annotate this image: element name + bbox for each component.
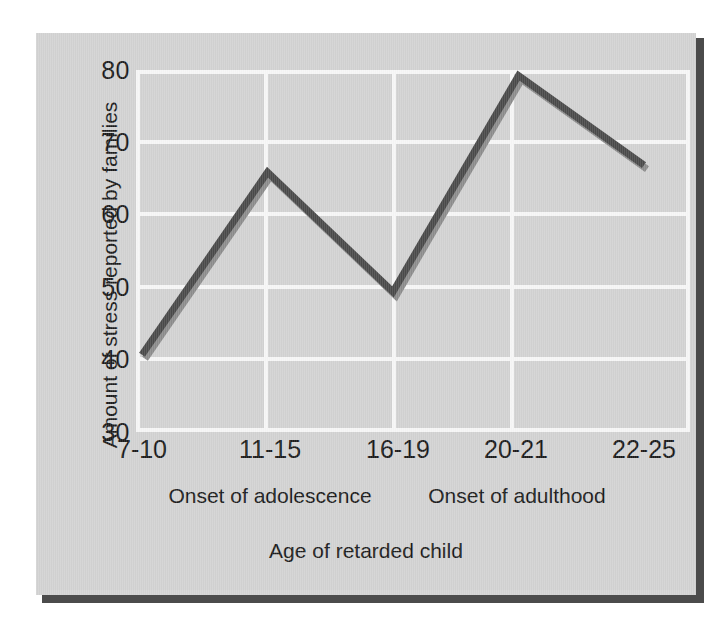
y-axis-ticks: 80 70 60 50 40 30 — [60, 70, 130, 432]
y-tick-50: 50 — [74, 275, 130, 300]
x-tick-16-19: 16-19 — [366, 437, 430, 462]
chart-figure: Amount of stress reported by families 80… — [0, 0, 722, 631]
onset-captions: Onset of adolescence Onset of adulthood — [96, 485, 696, 515]
data-series-line — [136, 70, 690, 432]
x-axis-ticks: 7-10 11-15 16-19 20-21 22-25 — [136, 437, 690, 471]
y-tick-70: 70 — [74, 130, 130, 155]
x-tick-7-10: 7-10 — [117, 437, 167, 462]
caption-onset-adulthood: Onset of adulthood — [428, 485, 605, 506]
chart-card: Amount of stress reported by families 80… — [36, 33, 696, 595]
x-tick-11-15: 11-15 — [239, 437, 301, 462]
y-tick-60: 60 — [74, 202, 130, 227]
plot-area — [136, 70, 690, 432]
x-tick-22-25: 22-25 — [612, 437, 676, 462]
y-tick-40: 40 — [74, 347, 130, 372]
y-tick-80: 80 — [74, 58, 130, 83]
x-tick-20-21: 20-21 — [484, 437, 548, 462]
caption-onset-adolescence: Onset of adolescence — [168, 485, 371, 506]
x-axis-title: Age of retarded child — [36, 539, 696, 563]
